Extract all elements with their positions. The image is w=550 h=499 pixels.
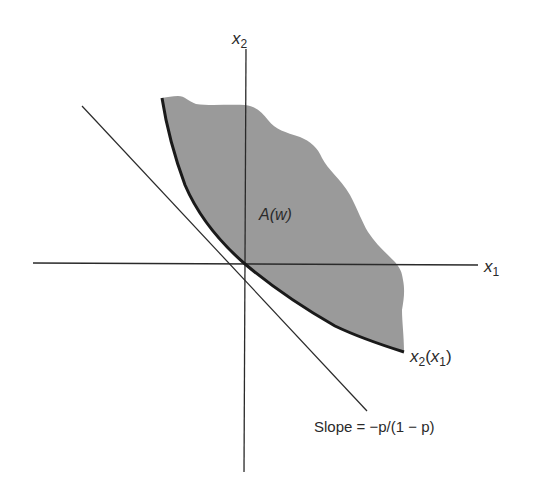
region-label: A(w) xyxy=(258,206,292,223)
slope-label: Slope = −p/(1 − p) xyxy=(314,418,435,435)
curve-label: x2(x1) xyxy=(409,347,452,369)
region-a-w xyxy=(162,96,404,352)
x2-axis-label: x2 xyxy=(231,29,248,51)
diagram-canvas: x2 x1 A(w) x2(x1) Slope = −p/(1 − p) xyxy=(0,0,550,499)
x1-axis-label: x1 xyxy=(483,257,500,279)
